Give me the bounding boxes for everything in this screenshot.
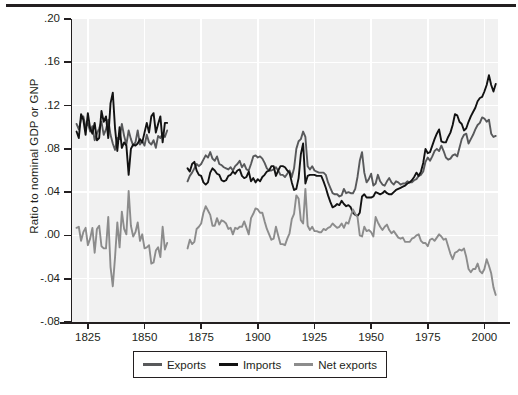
y-axis-tick-label: .12	[12, 99, 60, 111]
x-axis-tick-label: 1825	[58, 331, 118, 343]
x-axis-tick	[257, 322, 259, 329]
series-line-net-exports	[77, 191, 168, 286]
y-axis-tick-label: .20	[12, 12, 60, 24]
y-axis-tick-labels: -.08-.04.00.04.08.12.16.20	[8, 0, 60, 340]
y-axis-tick-label: .04	[12, 185, 60, 197]
legend-label: Imports	[243, 359, 281, 371]
y-axis-tick-label: -.08	[12, 315, 60, 327]
y-axis-tick	[64, 321, 71, 323]
x-axis-tick	[370, 322, 372, 329]
y-axis-tick	[64, 18, 71, 20]
plot-area	[72, 19, 498, 322]
y-axis-tick-label: .08	[12, 142, 60, 154]
chart-figure: Ratio to nominal GDP or GNP -.08-.04.00.…	[0, 0, 518, 395]
legend-swatch-icon	[143, 363, 162, 366]
legend-item-net-exports[interactable]: Net exports	[294, 359, 377, 371]
x-axis-tick-label: 1875	[171, 331, 231, 343]
legend-swatch-icon	[294, 363, 313, 366]
x-axis-tick-label: 1950	[341, 331, 401, 343]
y-axis-tick	[64, 61, 71, 63]
y-axis-tick-label: .16	[12, 55, 60, 67]
legend-label: Exports	[167, 359, 206, 371]
y-axis-tick-label: -.04	[12, 272, 60, 284]
y-axis-tick	[64, 148, 71, 150]
y-axis-tick-label: .00	[12, 228, 60, 240]
chart-legend: ExportsImportsNet exports	[133, 351, 387, 378]
legend-item-imports[interactable]: Imports	[219, 359, 281, 371]
y-axis-tick	[64, 105, 71, 107]
x-axis-tick-label: 1850	[115, 331, 175, 343]
x-axis-tick	[144, 322, 146, 329]
x-axis-tick	[427, 322, 429, 329]
series-line-net-exports	[188, 189, 496, 295]
y-axis-tick	[64, 235, 71, 237]
x-axis-tick-label: 2000	[454, 331, 514, 343]
legend-item-exports[interactable]: Exports	[143, 359, 206, 371]
legend-label: Net exports	[318, 359, 377, 371]
x-axis-tick	[484, 322, 486, 329]
series-line-imports	[77, 93, 168, 175]
top-divider	[6, 4, 516, 7]
x-axis-tick-label: 1925	[284, 331, 344, 343]
legend-swatch-icon	[219, 363, 238, 366]
series-lines	[72, 19, 498, 322]
series-line-exports	[188, 117, 496, 196]
x-axis-tick	[314, 322, 316, 329]
x-axis-tick-label: 1975	[398, 331, 458, 343]
x-axis-tick	[200, 322, 202, 329]
y-axis-tick	[64, 278, 71, 280]
x-axis-line	[60, 322, 510, 324]
y-axis-tick	[64, 191, 71, 193]
x-axis-tick-label: 1900	[228, 331, 288, 343]
x-axis-tick	[87, 322, 89, 329]
